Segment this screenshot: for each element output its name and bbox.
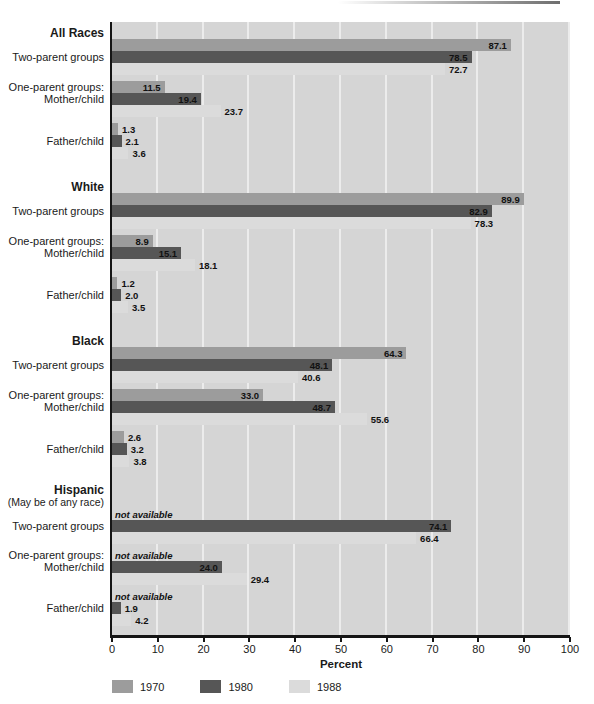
bar-track: 11.5 (112, 81, 570, 93)
value-label: 82.9 (469, 206, 488, 217)
bar-row: Mother/child19.4 (0, 93, 570, 105)
bar-1970: 33.0 (112, 389, 263, 401)
section-title: Hispanic (54, 483, 104, 497)
row-label: Mother/child (0, 94, 112, 105)
axis-tick (477, 637, 479, 642)
bar-row: One-parent groups:8.9 (0, 235, 570, 247)
bar-1970 (112, 277, 117, 289)
bar-track: 64.3 (112, 347, 570, 359)
bar-track: 89.9 (112, 193, 570, 205)
bar-track: 4.2 (112, 614, 570, 626)
bar-row: Father/child2.0 (0, 289, 570, 301)
bar-row: 23.7 (0, 105, 570, 117)
bar-1970: 8.9 (112, 235, 153, 247)
value-label: 33.0 (241, 390, 260, 401)
axis-tick (294, 637, 296, 642)
section-black: Black64.3Two-parent groups48.140.6One-pa… (0, 330, 570, 467)
row-label: Two-parent groups (0, 52, 112, 63)
bar-track: 3.5 (112, 301, 570, 313)
bar-track: 2.0 (112, 289, 570, 301)
bar-1980: 48.7 (112, 401, 335, 413)
bar-row: 40.6 (0, 371, 570, 383)
bar-1988 (112, 573, 247, 585)
bar-row: 55.6 (0, 413, 570, 425)
bar-track: 3.2 (112, 443, 570, 455)
axis-tick-label: 50 (323, 643, 359, 655)
legend: 197019801988 (112, 680, 377, 693)
bar-row: Two-parent groups78.5 (0, 51, 570, 63)
axis-tick-label: 0 (94, 643, 130, 655)
bar-track: 78.3 (112, 217, 570, 229)
bar-1970: 11.5 (112, 81, 165, 93)
legend-swatch-1980 (200, 680, 221, 693)
bar-row: 64.3 (0, 347, 570, 359)
bar-track: 72.7 (112, 63, 570, 75)
bar-track: 74.1 (112, 520, 570, 532)
bar-1980 (112, 135, 122, 147)
bar-row: Two-parent groups74.1 (0, 520, 570, 532)
bar-1980: 74.1 (112, 520, 451, 532)
bar-track: 1.3 (112, 123, 570, 135)
legend-swatch-1970 (112, 680, 133, 693)
bar-group: 2.6Father/child3.23.8 (0, 431, 570, 467)
bar-track: 40.6 (112, 371, 570, 383)
section-all-races: All Races87.1Two-parent groups78.572.7On… (0, 22, 570, 159)
bar-1988 (112, 455, 129, 467)
bar-track: 48.7 (112, 401, 570, 413)
row-label: Father/child (0, 136, 112, 147)
bar-1970 (112, 123, 118, 135)
section-header: Hispanic(May be of any race) (0, 485, 112, 508)
bar-1988 (112, 614, 131, 626)
bar-1970: 89.9 (112, 193, 524, 205)
value-label: 8.9 (136, 236, 149, 247)
not-available-label: not available (115, 591, 173, 602)
bar-1988 (112, 301, 128, 313)
section-header: All Races (0, 28, 112, 39)
bar-group: not availableTwo-parent groups74.166.4 (0, 508, 570, 544)
section-header-row: All Races (0, 22, 570, 39)
bar-row: 66.4 (0, 532, 570, 544)
bar-1970 (112, 431, 124, 443)
value-label: 2.1 (126, 136, 139, 147)
bar-1980: 15.1 (112, 247, 181, 259)
bar-group: 89.9Two-parent groups82.978.3 (0, 193, 570, 229)
section-header: Black (0, 336, 112, 347)
axis-tick-label: 80 (460, 643, 496, 655)
axis-tick (386, 637, 388, 642)
bar-1988 (112, 147, 128, 159)
value-label: 2.0 (125, 290, 138, 301)
bar-group: 1.2Father/child2.03.5 (0, 277, 570, 313)
chart-rows: All Races87.1Two-parent groups78.572.7On… (0, 22, 570, 631)
value-label: 78.5 (449, 52, 468, 63)
bar-row: 72.7 (0, 63, 570, 75)
value-label: 40.6 (302, 372, 321, 383)
value-label: 78.3 (475, 218, 494, 229)
bar-group: 1.3Father/child2.13.6 (0, 123, 570, 159)
section-subtitle: (May be of any race) (0, 497, 104, 508)
bar-row: 87.1 (0, 39, 570, 51)
value-label: 3.2 (131, 444, 144, 455)
bar-row: One-parent groups:33.0 (0, 389, 570, 401)
bar-row: One-parent groups:not available (0, 549, 570, 561)
axis-tick (340, 637, 342, 642)
bar-track: 24.0 (112, 561, 570, 573)
bar-1980: 19.4 (112, 93, 201, 105)
bar-track: 23.7 (112, 105, 570, 117)
value-label: 66.4 (420, 533, 439, 544)
value-label: 48.1 (310, 360, 329, 371)
legend-entry-1988: 1988 (289, 680, 341, 693)
bar-1970: 64.3 (112, 347, 406, 359)
bar-row: 18.1 (0, 259, 570, 271)
bar-row: 78.3 (0, 217, 570, 229)
bar-row: Father/child1.9 (0, 602, 570, 614)
bar-row: 1.2 (0, 277, 570, 289)
bar-chart-figure: All Races87.1Two-parent groups78.572.7On… (0, 0, 594, 704)
value-label: 29.4 (251, 574, 270, 585)
bar-group: One-parent groups:33.0Mother/child48.755… (0, 389, 570, 425)
axis-tick (569, 637, 571, 642)
bar-track: not available (112, 590, 570, 602)
bar-1980: 24.0 (112, 561, 222, 573)
bar-track: 19.4 (112, 93, 570, 105)
value-label: 87.1 (488, 40, 507, 51)
bar-track: 3.6 (112, 147, 570, 159)
